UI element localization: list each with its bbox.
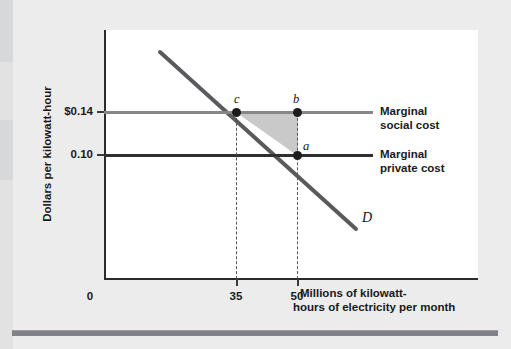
x-tick-mark-50	[297, 279, 299, 286]
data-point-label-b: b	[293, 92, 299, 107]
legend-label-social-cost: Marginal social cost	[380, 104, 439, 132]
page-edge-band-segment-middle	[0, 120, 13, 180]
y-axis-title: Dollars per kilowatt-hour	[41, 74, 53, 234]
legend-label-social-cost-line2: social cost	[380, 119, 439, 131]
legend-label-private-cost: Marginal private cost	[380, 147, 445, 175]
x-axis-title-line1: Millions of kilowatt-	[300, 286, 500, 300]
demand-curve-label: D	[362, 210, 372, 226]
data-point-a[interactable]	[293, 151, 302, 160]
page-edge-band-segment-top	[0, 0, 13, 62]
legend-label-private-cost-line1: Marginal	[380, 148, 427, 160]
chart-screenshot: c b a D $0.14 0.10 Dollars per kilowatt-…	[0, 0, 511, 349]
data-point-b[interactable]	[293, 108, 302, 117]
bottom-rule	[12, 331, 498, 336]
x-axis-title: Millions of kilowatt- hours of electrici…	[300, 286, 500, 314]
legend-label-social-cost-line1: Marginal	[380, 105, 427, 117]
dashed-guide-line-50	[297, 113, 298, 279]
origin-label: 0	[70, 290, 110, 302]
y-tick-mark-010	[97, 154, 104, 156]
legend-line-social-cost	[355, 111, 373, 114]
legend-label-private-cost-line2: private cost	[380, 162, 445, 174]
x-axis-line	[104, 278, 478, 280]
data-point-label-c: c	[234, 92, 240, 107]
x-tick-label-35: 35	[216, 290, 256, 302]
marginal-private-cost-line	[104, 154, 372, 157]
dashed-guide-line-35	[236, 113, 237, 279]
x-axis-title-line2: hours of electricity per month	[293, 300, 500, 314]
x-tick-mark-35	[236, 279, 238, 286]
y-tick-mark-014	[97, 111, 104, 113]
data-point-c[interactable]	[232, 108, 241, 117]
data-point-label-a: a	[303, 139, 309, 154]
legend-line-private-cost	[355, 154, 373, 157]
